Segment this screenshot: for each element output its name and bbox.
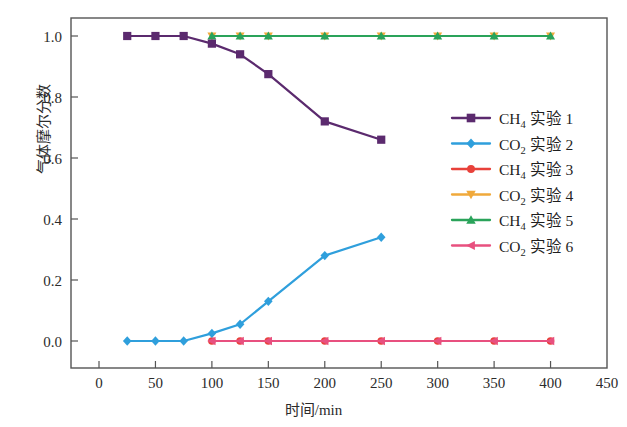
data-point-marker: [151, 32, 159, 40]
plot-area: 0501001502002503003504004500.00.20.40.60…: [0, 0, 627, 427]
chart-figure: 气体摩尔分数 时间/min 05010015020025030035040045…: [0, 0, 627, 427]
data-point-marker: [180, 32, 188, 40]
data-point-marker: [321, 117, 329, 125]
x-tick-label: 350: [483, 375, 506, 391]
x-tick-label: 150: [257, 375, 280, 391]
x-tick-label: 250: [370, 375, 393, 391]
x-tick-label: 200: [314, 375, 337, 391]
data-point-marker: [264, 70, 272, 78]
data-point-marker: [467, 114, 476, 123]
x-tick-label: 300: [426, 375, 449, 391]
y-tick-label: 1.0: [43, 29, 62, 45]
x-tick-label: 100: [201, 375, 224, 391]
data-point-marker: [377, 136, 385, 144]
x-tick-label: 400: [539, 375, 562, 391]
x-tick-label: 0: [95, 375, 103, 391]
data-point-marker: [467, 165, 475, 173]
x-tick-label: 450: [596, 375, 619, 391]
y-tick-label: 0.6: [43, 151, 62, 167]
data-point-marker: [208, 40, 216, 48]
y-tick-label: 0.2: [43, 273, 62, 289]
x-tick-label: 50: [148, 375, 163, 391]
data-point-marker: [236, 50, 244, 58]
y-tick-label: 0.0: [43, 334, 62, 350]
y-tick-label: 0.4: [43, 212, 62, 228]
y-tick-label: 0.8: [43, 90, 62, 106]
data-point-marker: [123, 32, 131, 40]
